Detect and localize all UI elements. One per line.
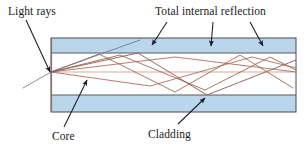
label-core: Core	[52, 131, 75, 143]
diagram-canvas: Light rays Total internal reflection Cor…	[0, 0, 307, 154]
label-cladding: Cladding	[148, 129, 191, 141]
label-total-internal-reflection: Total internal reflection	[155, 6, 266, 18]
cladding-bottom-band	[51, 95, 296, 112]
light-rays-leader-arrow	[26, 20, 50, 72]
label-light-rays: Light rays	[8, 6, 56, 18]
cladding-top-band	[51, 38, 296, 53]
